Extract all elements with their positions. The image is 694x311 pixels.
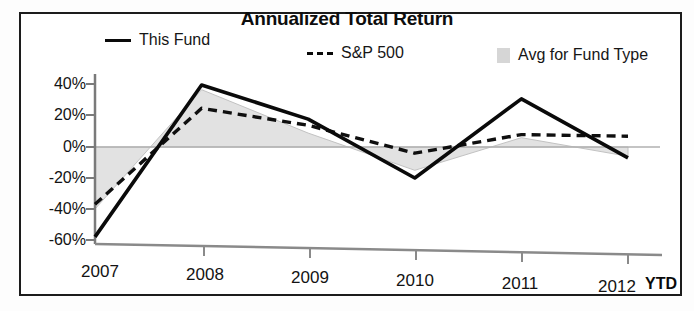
legend-item-avg-fund-type: Avg for Fund Type bbox=[497, 46, 648, 64]
legend-label-this-fund: This Fund bbox=[139, 31, 210, 49]
solid-line-swatch-icon bbox=[105, 39, 131, 42]
legend-item-sp500: S&P 500 bbox=[307, 44, 404, 62]
x-tick-label: 2009 bbox=[291, 268, 329, 288]
dashed-line-swatch-icon bbox=[307, 52, 333, 55]
x-tick-label: 2008 bbox=[186, 265, 224, 285]
x-axis-ytd-label: YTD bbox=[645, 275, 677, 293]
legend-label-avg-fund-type: Avg for Fund Type bbox=[518, 46, 648, 64]
chart-title: Annualized Total Return bbox=[0, 8, 694, 30]
x-tick-label: 2007 bbox=[81, 262, 119, 282]
x-tick-label: 2011 bbox=[502, 274, 539, 294]
shaded-box-swatch-icon bbox=[497, 48, 510, 63]
x-tick-label: 2012 bbox=[598, 277, 636, 297]
legend-item-this-fund: This Fund bbox=[105, 31, 210, 49]
x-tick-label: 2010 bbox=[396, 271, 434, 291]
legend-label-sp500: S&P 500 bbox=[341, 44, 404, 62]
